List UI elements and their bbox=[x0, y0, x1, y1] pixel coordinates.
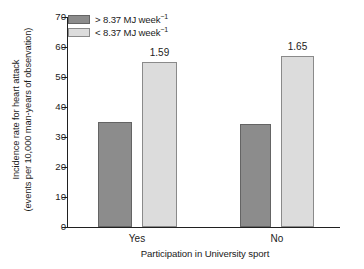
legend-swatch-high-activity bbox=[68, 15, 90, 24]
legend-label-high-activity: > 8.37 MJ week−1 bbox=[95, 14, 168, 25]
legend-swatch-low-activity bbox=[68, 28, 90, 37]
y-tick-label-70: 70 bbox=[42, 11, 66, 22]
x-axis-title: Participation in University sport bbox=[60, 248, 350, 259]
y-tick-label-60: 60 bbox=[42, 41, 66, 52]
plot-area: 70 60 50 40 30 20 10 0 1.59 1.65 Yes No bbox=[67, 17, 340, 227]
legend-exponent-low-activity: −1 bbox=[160, 26, 168, 33]
legend-item-low-activity: < 8.37 MJ week−1 bbox=[68, 27, 168, 38]
x-category-label-no: No bbox=[242, 233, 312, 244]
y-tick-label-0: 0 bbox=[42, 221, 66, 232]
y-axis-title-line1: Incidence rate for heart attack bbox=[11, 28, 23, 212]
bar-value-no: 1.65 bbox=[275, 41, 321, 52]
legend-exponent-high-activity: −1 bbox=[160, 13, 168, 20]
y-tick-label-20: 20 bbox=[42, 161, 66, 172]
legend: > 8.37 MJ week−1 < 8.37 MJ week−1 bbox=[68, 14, 168, 38]
legend-label-high-activity-text: > 8.37 MJ week bbox=[95, 14, 160, 25]
x-category-label-yes: Yes bbox=[102, 233, 172, 244]
legend-label-low-activity: < 8.37 MJ week−1 bbox=[95, 27, 168, 38]
y-axis-line bbox=[67, 17, 68, 228]
bar-no-low-activity bbox=[281, 56, 314, 227]
y-axis-title-line2: (events per 10,000 man-years of observat… bbox=[23, 28, 35, 212]
y-tick-label-10: 10 bbox=[42, 191, 66, 202]
legend-label-low-activity-text: < 8.37 MJ week bbox=[95, 27, 160, 38]
y-axis-title: Incidence rate for heart attack (events … bbox=[0, 0, 46, 240]
y-tick-label-30: 30 bbox=[42, 131, 66, 142]
bar-value-yes: 1.59 bbox=[137, 47, 183, 58]
bar-yes-low-activity bbox=[142, 62, 177, 227]
bar-chart-figure: Incidence rate for heart attack (events … bbox=[0, 0, 364, 269]
bar-no-high-activity bbox=[240, 124, 271, 228]
bar-yes-high-activity bbox=[98, 122, 132, 227]
y-tick-label-50: 50 bbox=[42, 71, 66, 82]
x-axis-line bbox=[67, 227, 340, 228]
legend-item-high-activity: > 8.37 MJ week−1 bbox=[68, 14, 168, 25]
y-tick-label-40: 40 bbox=[42, 101, 66, 112]
